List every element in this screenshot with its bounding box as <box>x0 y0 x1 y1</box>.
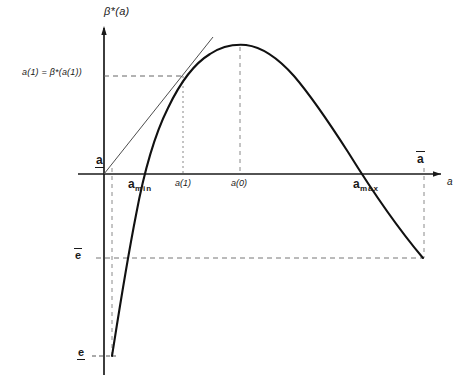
a-upper-bound-label: a <box>417 153 424 165</box>
a-lower-bound-glyph: a <box>96 154 103 166</box>
a-upper-bound-glyph: a <box>417 153 424 165</box>
a-one-label: a(1) <box>175 179 191 188</box>
e-upper-bound-label: e <box>75 250 81 261</box>
a-max-subscript: max <box>360 184 379 193</box>
a-zero-label: a(0) <box>231 179 247 188</box>
a-min-label: amin <box>128 178 152 193</box>
fixed-point-value-label: a(1) = β*(a(1)) <box>22 68 82 77</box>
a-max-label: amax <box>353 178 379 193</box>
e-lower-bound-label: e <box>78 347 84 358</box>
beta-star-curve <box>112 45 423 356</box>
x-axis-label: a <box>447 177 453 187</box>
figure-canvas: β*(a) a a(1) = β*(a(1)) amin a(1) a(0) a… <box>0 0 475 385</box>
x-axis-arrowhead <box>433 171 441 176</box>
forty-five-degree-tangent-ray <box>104 37 213 174</box>
y-axis-label: β*(a) <box>104 6 130 17</box>
plot-svg <box>0 0 475 385</box>
e-upper-bound-glyph: e <box>75 250 81 261</box>
a-lower-bound-label: a <box>96 154 103 166</box>
e-lower-bound-glyph: e <box>78 347 84 358</box>
y-axis-arrowhead <box>101 26 106 35</box>
a-min-subscript: min <box>135 184 152 193</box>
